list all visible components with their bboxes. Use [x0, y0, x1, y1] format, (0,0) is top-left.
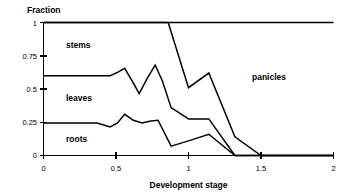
x-axis-title: Development stage	[150, 180, 228, 190]
region-label-leaves: leaves	[66, 93, 92, 103]
y-axis-title: Fraction	[27, 5, 61, 15]
x-tick-label-1.5: 1.5	[256, 164, 266, 173]
y-tick-label-0.5: 0.5	[27, 85, 37, 94]
y-axis-tick-labels: 0 0.25 0.5 0.75 1	[22, 19, 37, 161]
x-tick-label-0.5: 0.5	[111, 164, 121, 173]
region-label-stems: stems	[66, 40, 91, 50]
x-axis-tick-labels: 0 0.5 1 1.5 2	[41, 164, 335, 173]
region-label-roots: roots	[66, 134, 88, 144]
region-labels-group: stems leaves roots panicles	[66, 40, 286, 144]
region-label-panicles: panicles	[252, 72, 286, 82]
y-tick-label-1: 1	[33, 19, 37, 28]
partitioning-fraction-chart: Fraction 0 0.25 0.5 0.75 1	[0, 0, 350, 192]
x-tick-label-0: 0	[41, 164, 45, 173]
chart-container: Fraction 0 0.25 0.5 0.75 1	[0, 0, 350, 192]
y-tick-label-0.75: 0.75	[22, 52, 37, 61]
x-tick-label-1: 1	[186, 164, 190, 173]
x-tick-label-2: 2	[331, 164, 335, 173]
y-tick-label-0: 0	[33, 151, 37, 160]
y-tick-label-0.25: 0.25	[22, 118, 37, 127]
